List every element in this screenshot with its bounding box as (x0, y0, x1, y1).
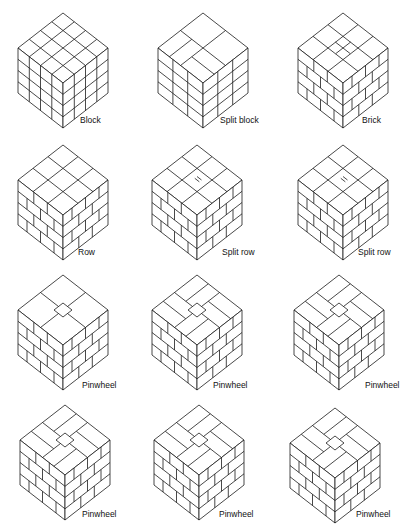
row-cube-drawing (0, 140, 139, 272)
pattern-pinwheel-e: Pinwheel (140, 400, 279, 532)
pattern-label: Split row (222, 247, 255, 257)
block-cube-drawing (0, 0, 139, 132)
pinwheel-cube-drawing (140, 270, 279, 402)
pinwheel-cube-drawing (0, 400, 139, 532)
pattern-row: Row (0, 140, 139, 272)
pattern-label: Pinwheel (365, 380, 400, 390)
pattern-label: Split block (220, 115, 259, 125)
pattern-label: Row (78, 247, 95, 257)
pattern-pinwheel-c: Pinwheel (280, 270, 419, 402)
pattern-split-row-b: Split row (280, 140, 419, 272)
pattern-split-row-a: Split row (140, 140, 279, 272)
split-block-cube-drawing (140, 0, 279, 132)
pattern-label: Pinwheel (356, 509, 391, 519)
brick-cube-drawing (280, 0, 419, 132)
pattern-label: Block (80, 115, 101, 125)
pattern-label: Pinwheel (219, 509, 254, 519)
pattern-pinwheel-b: Pinwheel (140, 270, 279, 402)
pattern-label: Pinwheel (213, 380, 248, 390)
pattern-block: Block (0, 0, 139, 132)
pattern-label: Pinwheel (82, 509, 117, 519)
pattern-pinwheel-a: Pinwheel (0, 270, 139, 402)
pinwheel-cube-drawing (0, 270, 139, 402)
split-row-cube-drawing (280, 140, 419, 272)
pattern-brick: Brick (280, 0, 419, 132)
split-row-cube-drawing (140, 140, 279, 272)
pattern-pinwheel-f: Pinwheel (280, 400, 419, 532)
pattern-label: Split row (358, 247, 391, 257)
pattern-label: Pinwheel (82, 380, 117, 390)
pattern-label: Brick (362, 115, 381, 125)
pattern-split-block: Split block (140, 0, 279, 132)
pinwheel-cube-drawing (140, 400, 279, 532)
pattern-pinwheel-d: Pinwheel (0, 400, 139, 532)
pinwheel-cube-drawing (280, 400, 419, 532)
